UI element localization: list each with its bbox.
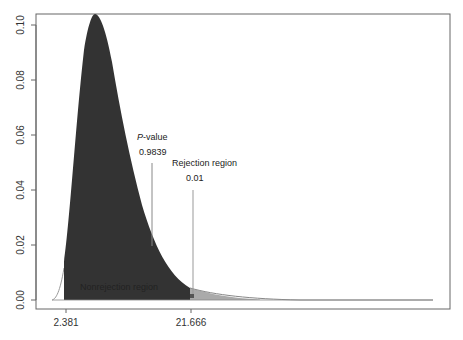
chi-square-chart: 0.00 0.02 0.04 0.06 0.08 0.10 2.381 21.6… (0, 0, 463, 340)
rejection-region-number: 0.01 (186, 173, 204, 183)
nonrejection-region (64, 14, 190, 300)
pvalue-label: P-value (137, 132, 168, 142)
y-tick-label: 0.04 (15, 180, 26, 200)
y-tick-label: 0.08 (15, 70, 26, 90)
rejection-marker (190, 294, 194, 298)
x-tick-label-critical-low: 2.381 (53, 317, 78, 328)
density-curve-left-tail (52, 268, 64, 300)
pvalue-number: 0.9839 (139, 147, 167, 157)
nonrejection-region-label: Nonrejection region (80, 282, 158, 292)
x-tick-label-critical-high: 21.666 (176, 317, 207, 328)
y-tick-label: 0.06 (15, 125, 26, 145)
y-ticks (31, 25, 36, 300)
y-tick-label: 0.02 (15, 235, 26, 255)
y-tick-label: 0.10 (15, 15, 26, 35)
y-tick-label: 0.00 (15, 290, 26, 310)
rejection-region (190, 288, 260, 300)
rejection-region-label: Rejection region (172, 158, 237, 168)
